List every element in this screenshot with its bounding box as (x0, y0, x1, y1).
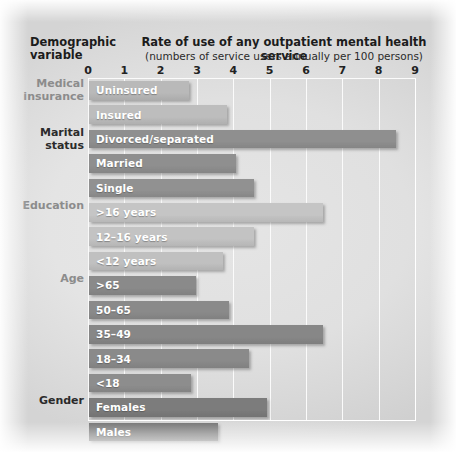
chart-container: Demographic variable Rate of use of any … (0, 0, 456, 452)
bar-row: 50–65 (89, 299, 416, 323)
group-label-line: status (45, 139, 84, 152)
x-tick-7: 7 (338, 64, 346, 77)
group-label-gender: Gender (0, 394, 84, 407)
bar-row: 12–16 years (89, 225, 416, 249)
bar-label: Insured (89, 109, 142, 121)
bar-16-years[interactable]: >16 years (89, 203, 323, 222)
group-label-age: Age (0, 272, 84, 285)
group-label-line: Medical (36, 77, 84, 90)
bar-row: Single (89, 177, 416, 201)
bar-label: <18 (89, 377, 120, 389)
plot-bottom-rule (88, 420, 416, 421)
x-tick-9: 9 (411, 64, 419, 77)
bar-label: 50–65 (89, 304, 131, 316)
group-label-line: Age (60, 272, 84, 285)
bar-row: <12 years (89, 250, 416, 274)
bar-label: 12–16 years (89, 231, 168, 243)
x-tick-6: 6 (302, 64, 310, 77)
bar-row: >16 years (89, 201, 416, 225)
bar-label: <12 years (89, 255, 156, 267)
bar-12-years[interactable]: <12 years (89, 252, 223, 271)
group-label-medical-insurance: Medicalinsurance (0, 77, 84, 103)
bar-18-34[interactable]: 18–34 (89, 349, 249, 368)
bar-label: Divorced/separated (89, 133, 214, 145)
bar-row: Married (89, 152, 416, 176)
bar-row: 18–34 (89, 347, 416, 371)
bar-label: Married (89, 157, 143, 169)
bar-males[interactable]: Males (89, 423, 218, 442)
chart-subtitle: (numbers of service users annually per 1… (128, 50, 440, 63)
bar-divorced-separated[interactable]: Divorced/separated (89, 130, 396, 149)
bar-row: Uninsured (89, 79, 416, 103)
bar-label: Females (89, 401, 146, 413)
bar-18[interactable]: <18 (89, 374, 191, 393)
bar-row: Males (89, 421, 416, 445)
bar-insured[interactable]: Insured (89, 105, 227, 124)
bar-35-49[interactable]: 35–49 (89, 325, 323, 344)
bar-married[interactable]: Married (89, 154, 236, 173)
bar-label: >16 years (89, 206, 156, 218)
x-tick-3: 3 (193, 64, 201, 77)
bar-label: Single (89, 182, 133, 194)
bar-row: Females (89, 396, 416, 420)
bar-label: Uninsured (89, 84, 158, 96)
bar-uninsured[interactable]: Uninsured (89, 81, 189, 100)
bar-row: Divorced/separated (89, 128, 416, 152)
plot-area: UninsuredInsuredDivorced/separatedMarrie… (88, 78, 416, 421)
group-label-marital-status: Maritalstatus (0, 126, 84, 152)
x-tick-0: 0 (84, 64, 92, 77)
bar-females[interactable]: Females (89, 398, 267, 417)
bar-12-16-years[interactable]: 12–16 years (89, 227, 254, 246)
x-tick-2: 2 (157, 64, 165, 77)
bar-label: Males (89, 426, 131, 438)
bar-row: 35–49 (89, 323, 416, 347)
bar-single[interactable]: Single (89, 179, 254, 198)
bar-50-65[interactable]: 50–65 (89, 301, 229, 320)
bar-label: >65 (89, 279, 120, 291)
bar-row: >65 (89, 274, 416, 298)
group-label-education: Education (0, 199, 84, 212)
bar-row: <18 (89, 372, 416, 396)
x-tick-1: 1 (121, 64, 129, 77)
group-label-line: Education (22, 199, 84, 212)
bar-label: 35–49 (89, 328, 131, 340)
x-tick-5: 5 (266, 64, 274, 77)
bar-label: 18–34 (89, 353, 131, 365)
bar-65[interactable]: >65 (89, 276, 196, 295)
bar-row: Insured (89, 103, 416, 127)
demographic-variable-header: Demographic variable (30, 36, 126, 62)
group-label-line: insurance (23, 90, 84, 103)
group-label-line: Marital (40, 126, 84, 139)
x-tick-8: 8 (375, 64, 383, 77)
group-label-line: Gender (39, 394, 84, 407)
x-tick-4: 4 (229, 64, 237, 77)
